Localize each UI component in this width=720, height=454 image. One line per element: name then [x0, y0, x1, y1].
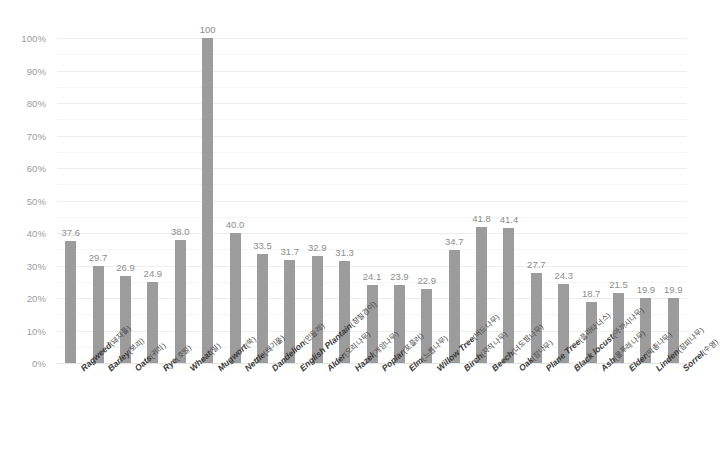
- bar-value-label: 29.7: [89, 252, 108, 263]
- y-axis-tick-label: 10%: [27, 325, 46, 336]
- y-axis-tick-label: 70%: [27, 130, 46, 141]
- bar-value-label: 41.4: [500, 214, 519, 225]
- bar-value-label: 24.9: [144, 268, 163, 279]
- bar-slot[interactable]: 27.7: [531, 38, 542, 363]
- bar-slot[interactable]: 38.0: [175, 38, 186, 363]
- bar-slot[interactable]: 29.7: [93, 38, 104, 363]
- bar-slot[interactable]: 34.7: [449, 38, 460, 363]
- bar[interactable]: [503, 228, 514, 363]
- bar-value-label: 40.0: [226, 219, 245, 230]
- x-axis-tick-label: Beech(너도밤나무): [489, 365, 496, 373]
- bar-slot[interactable]: 24.9: [147, 38, 158, 363]
- bar-value-label: 24.1: [363, 271, 382, 282]
- x-axis-tick-label: Sorrel(수영): [680, 365, 687, 373]
- bar-value-label: 33.5: [253, 240, 272, 251]
- bar-value-label: 23.9: [390, 271, 409, 282]
- bar-value-label: 19.9: [637, 284, 656, 295]
- x-axis-tick-label: Elder(딱총나무): [626, 365, 633, 373]
- bar-value-label: 31.3: [335, 247, 354, 258]
- bar-value-label: 21.5: [609, 279, 628, 290]
- bar[interactable]: [476, 227, 487, 363]
- bar-slot[interactable]: 23.9: [394, 38, 405, 363]
- bar-value-label: 19.9: [664, 284, 683, 295]
- bar[interactable]: [202, 38, 213, 363]
- x-axis-tick-label: Ash(물푸레나무): [598, 365, 605, 373]
- bar-slot[interactable]: 18.7: [586, 38, 597, 363]
- x-axis-tick-label: Nettle(쐐기풀): [242, 365, 249, 373]
- x-axis-labels: Ragweed(돼지풀)Barley(보리)Oats(귀리)Rye(호밀)Whe…: [57, 365, 687, 454]
- bar-value-label: 41.8: [472, 213, 491, 224]
- bar-slot[interactable]: 19.9: [668, 38, 679, 363]
- x-axis-tick-label: Ragweed(돼지풀): [78, 365, 85, 373]
- y-axis-tick-label: 40%: [27, 228, 46, 239]
- bar-slot[interactable]: 21.5: [613, 38, 624, 363]
- y-axis-tick-label: 50%: [27, 195, 46, 206]
- x-axis-tick-label: English Plantain(창질경이): [297, 365, 304, 373]
- bar-slot[interactable]: 26.9: [120, 38, 131, 363]
- x-axis-tick-label: Alder(오리나무): [324, 365, 331, 373]
- x-axis-tick-label: Rye(호밀): [160, 365, 167, 373]
- bar-value-label: 38.0: [171, 226, 190, 237]
- bar-slot[interactable]: 32.9: [312, 38, 323, 363]
- bar-value-label: 22.9: [418, 275, 437, 286]
- bars-layer: 37.629.726.924.938.010040.033.531.732.93…: [57, 38, 687, 363]
- y-axis: 0%10%20%30%40%50%60%70%80%90%100%: [0, 38, 52, 363]
- bar-slot[interactable]: 33.5: [257, 38, 268, 363]
- x-axis-tick-label: Barley(보리): [105, 365, 112, 373]
- y-axis-tick-label: 80%: [27, 98, 46, 109]
- x-label-ko: (수영): [700, 337, 720, 356]
- x-axis-tick-label: Black locust(아까시나무): [571, 365, 578, 373]
- bar-value-label: 31.7: [281, 246, 300, 257]
- x-axis-tick-label: Oats(귀리): [132, 365, 139, 373]
- x-axis-tick-label: Oak(참나무): [516, 365, 523, 373]
- y-axis-tick-label: 0%: [32, 358, 46, 369]
- bar-slot[interactable]: 41.4: [503, 38, 514, 363]
- y-axis-tick-label: 60%: [27, 163, 46, 174]
- bar-value-label: 37.6: [61, 227, 80, 238]
- bar-slot[interactable]: 37.6: [65, 38, 76, 363]
- y-axis-tick-label: 20%: [27, 293, 46, 304]
- bar[interactable]: [65, 241, 76, 363]
- axis-baseline: [57, 363, 687, 364]
- y-axis-tick-label: 90%: [27, 65, 46, 76]
- x-axis-tick-label: Wheat(밀): [187, 365, 194, 373]
- bar-value-label: 32.9: [308, 242, 327, 253]
- x-axis-tick-label: Birch(자작나무): [461, 365, 468, 373]
- x-axis-tick-label: Dandelion(민들레): [269, 365, 276, 373]
- x-axis-tick-label: Linden(참피나무): [653, 365, 660, 373]
- bar-value-label: 26.9: [116, 262, 135, 273]
- x-axis-tick-label: Willow Tree(버드나무): [434, 365, 441, 373]
- bar-slot[interactable]: 31.3: [339, 38, 350, 363]
- bar-value-label: 34.7: [445, 236, 464, 247]
- y-axis-tick-label: 30%: [27, 260, 46, 271]
- y-axis-tick-label: 100%: [21, 33, 46, 44]
- bar-slot[interactable]: 31.7: [284, 38, 295, 363]
- bar-slot[interactable]: 100: [202, 38, 213, 363]
- x-axis-tick-label: Poplar(포플러): [379, 365, 386, 373]
- bar-value-label: 27.7: [527, 259, 546, 270]
- x-axis-tick-label: Elm(느릅나무): [406, 365, 413, 373]
- bar-slot[interactable]: 22.9: [421, 38, 432, 363]
- x-axis-tick-label: Hazel(개암나무): [352, 365, 359, 373]
- bar-value-label: 100: [200, 24, 216, 35]
- x-axis-tick-label: Mugwort(쑥): [215, 365, 222, 373]
- bar-value-label: 24.3: [554, 270, 573, 281]
- bar-slot[interactable]: 24.3: [558, 38, 569, 363]
- x-axis-tick-label: Plane Tree(플라타너스): [543, 365, 550, 373]
- bar-value-label: 18.7: [582, 288, 601, 299]
- bar-slot[interactable]: 40.0: [230, 38, 241, 363]
- bar-slot[interactable]: 41.8: [476, 38, 487, 363]
